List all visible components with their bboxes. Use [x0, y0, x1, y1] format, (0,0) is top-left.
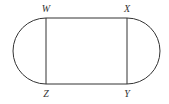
geometry-diagram: W X Z Y [0, 0, 169, 104]
label-z: Z [43, 88, 49, 99]
left-semicircle [13, 18, 46, 84]
label-w: W [42, 3, 52, 14]
label-x: X [123, 3, 131, 14]
right-semicircle [127, 18, 160, 84]
label-y: Y [124, 88, 131, 99]
